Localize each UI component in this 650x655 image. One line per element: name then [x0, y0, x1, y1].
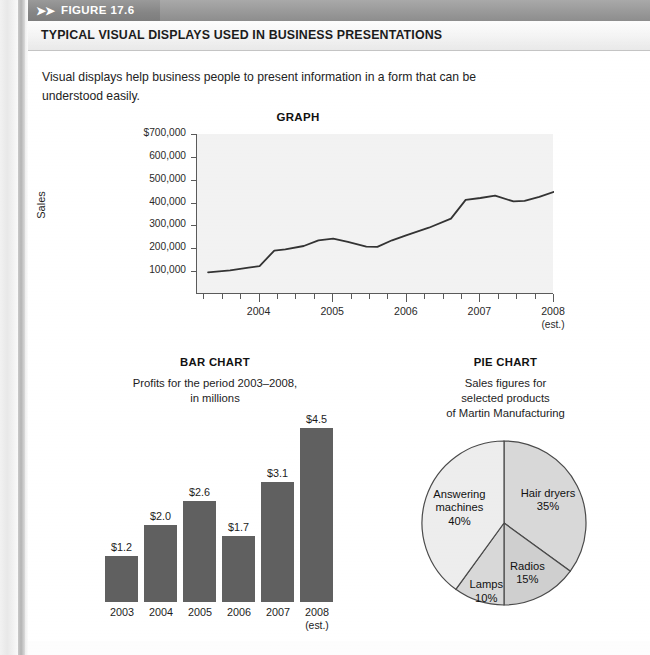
page-spine-shadow [18, 0, 25, 655]
line-graph-x-tick-minor [240, 294, 241, 299]
bar-chart-x-label: 2007 [257, 606, 299, 618]
bar-chart-value-label: $1.7 [220, 521, 257, 533]
pie-chart-section: PIE CHART Sales figures forselected prod… [398, 356, 628, 641]
line-graph-y-tick-mark [191, 180, 196, 181]
line-graph-y-axis-label: Sales [35, 175, 47, 235]
figure-box: ➤➤ FIGURE 17.6 TYPICAL VISUAL DISPLAYS U… [28, 0, 650, 641]
line-graph-y-tick-mark [191, 248, 196, 249]
line-graph-x-tick-label: 2008 [530, 305, 576, 317]
figure-number-label: FIGURE 17.6 [61, 5, 134, 17]
pie-chart-subtitle: Sales figures forselected productsof Mar… [398, 376, 613, 421]
line-graph-x-tick-major [259, 294, 260, 302]
bar-chart-x-label: 2003 [101, 606, 143, 618]
line-graph-x-tick-minor [461, 294, 462, 299]
bar-chart-value-label: $4.5 [298, 413, 335, 425]
figure-intro-text: Visual displays help business people to … [42, 68, 512, 106]
bar-chart-bar-column: $2.6 [181, 414, 218, 602]
line-graph-x-tick-major [406, 294, 407, 302]
bar-chart-subtitle-line-2: in millions [90, 391, 340, 406]
bar-chart-subtitle-line-1: Profits for the period 2003–2008, [90, 376, 340, 391]
figure-title-band: TYPICAL VISUAL DISPLAYS USED IN BUSINESS… [28, 21, 650, 51]
line-graph-x-tick-major [553, 294, 554, 302]
line-graph-x-tick-minor [314, 294, 315, 299]
line-graph-x-tick-label: 2005 [309, 305, 355, 317]
bar-chart-x-label: 2004 [140, 606, 182, 618]
line-graph-x-tick-minor [369, 294, 370, 299]
line-graph-y-tick-labels: $700,000600,000500,000400,000300,000200,… [86, 134, 192, 294]
line-graph-plot-area [196, 134, 553, 294]
line-graph-y-tick-label: $700,000 [144, 127, 187, 138]
bar-chart-bar [261, 482, 294, 602]
figure-title: TYPICAL VISUAL DISPLAYS USED IN BUSINESS… [41, 28, 442, 42]
pie-chart-subtitle-line-2: selected products [398, 391, 613, 406]
bar-chart-section: BAR CHART Profits for the period 2003–20… [90, 356, 340, 641]
pie-chart-slice-label: Hair dryers35% [521, 486, 576, 513]
line-graph-x-tick-label: 2007 [456, 305, 502, 317]
figure-number-tag: ➤➤ FIGURE 17.6 [28, 0, 160, 21]
line-graph-x-tick-minor [516, 294, 517, 299]
line-graph-series-path [197, 134, 554, 294]
line-graph-x-tick-major [479, 294, 480, 302]
line-graph-y-tick-mark [191, 271, 196, 272]
line-graph-x-tick-label: 2004 [236, 305, 282, 317]
line-graph-x-tick-minor [387, 294, 388, 299]
line-graph-y-tick-label: 400,000 [149, 196, 186, 207]
pie-chart-slice-label: Answeringmachines40% [433, 488, 485, 529]
bar-chart-value-label: $2.6 [181, 486, 218, 498]
line-graph-x-tick-sublabel: (est.) [530, 319, 576, 330]
line-graph-title: GRAPH [28, 111, 568, 123]
bar-chart-subtitle: Profits for the period 2003–2008,in mill… [90, 376, 340, 406]
line-graph-x-tick-minor [295, 294, 296, 299]
bar-chart-bar [183, 501, 216, 602]
line-graph-x-tick-minor [203, 294, 204, 299]
line-graph-x-tick-minor [535, 294, 536, 299]
pie-chart-slice-label: Lamps10% [469, 578, 503, 605]
line-graph-x-tick-minor [222, 294, 223, 299]
line-graph-x-tick-minor [351, 294, 352, 299]
figure-body: Visual displays help business people to … [28, 51, 650, 641]
line-graph-y-tick-label: 500,000 [149, 173, 186, 184]
bar-chart-bar [105, 556, 138, 602]
bar-chart-bar-column: $1.2 [103, 414, 140, 602]
bar-chart-bar [300, 428, 333, 602]
line-graph-y-tick-label: 100,000 [149, 264, 186, 275]
bar-chart-bar-column: $4.5 [298, 414, 335, 602]
page-left-gutter [0, 0, 18, 655]
bar-chart-value-label: $3.1 [259, 467, 296, 479]
line-graph-x-tick-major [332, 294, 333, 302]
bar-chart-x-label: 2006 [218, 606, 260, 618]
bar-chart-bar-column: $2.0 [142, 414, 179, 602]
bar-chart-x-sublabel: (est.) [296, 620, 338, 631]
line-graph-y-tick-mark [191, 203, 196, 204]
line-graph-x-tick-minor [277, 294, 278, 299]
bar-chart-value-label: $1.2 [103, 541, 140, 553]
scanned-page: ➤➤ FIGURE 17.6 TYPICAL VISUAL DISPLAYS U… [0, 0, 650, 655]
figure-header-band: ➤➤ FIGURE 17.6 [28, 0, 650, 21]
line-graph-y-tick-mark [191, 157, 196, 158]
line-graph-x-tick-label: 2006 [383, 305, 429, 317]
pie-chart-title: PIE CHART [398, 356, 613, 368]
pie-chart-slice-label: Radios15% [510, 559, 545, 586]
line-graph-y-tick-label: 300,000 [149, 218, 186, 229]
double-arrow-icon: ➤➤ [36, 5, 54, 17]
bar-chart-x-label: 2005 [179, 606, 221, 618]
pie-chart-plot-area: Hair dryers35%Radios15%Lamps10%Answering… [419, 438, 589, 608]
bar-chart-title: BAR CHART [90, 356, 340, 368]
bar-chart-bar-column: $3.1 [259, 414, 296, 602]
line-graph-y-tick-mark [191, 134, 196, 135]
bar-chart-x-label: 2008 [296, 606, 338, 618]
pie-chart-subtitle-line-3: of Martin Manufacturing [398, 406, 613, 421]
pie-chart-subtitle-line-1: Sales figures for [398, 376, 613, 391]
line-graph-y-tick-label: 600,000 [149, 150, 186, 161]
bar-chart-bar [222, 536, 255, 602]
bar-chart-value-label: $2.0 [142, 510, 179, 522]
bar-chart-plot-area: $1.2$2.0$2.6$1.7$3.1$4.5 [90, 414, 340, 602]
bar-chart-bar [144, 525, 177, 602]
line-graph-x-tick-minor [424, 294, 425, 299]
line-graph-y-tick-mark [191, 225, 196, 226]
bar-chart-bar-column: $1.7 [220, 414, 257, 602]
line-graph-x-tick-minor [443, 294, 444, 299]
line-graph-x-tick-minor [498, 294, 499, 299]
line-graph-y-tick-label: 200,000 [149, 241, 186, 252]
line-graph-section: GRAPH Sales $700,000600,000500,000400,00… [28, 111, 650, 341]
